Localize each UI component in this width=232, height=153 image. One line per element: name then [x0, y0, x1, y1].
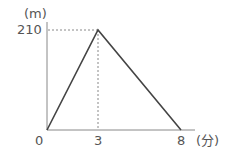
x-tick-3: 3 — [94, 134, 102, 147]
y-axis-unit: (m) — [24, 7, 47, 20]
x-tick-0: 0 — [35, 134, 43, 147]
data-line — [47, 30, 181, 130]
x-axis-unit: (分) — [196, 134, 219, 147]
y-tick-210: 210 — [17, 23, 42, 36]
x-tick-8: 8 — [177, 134, 185, 147]
